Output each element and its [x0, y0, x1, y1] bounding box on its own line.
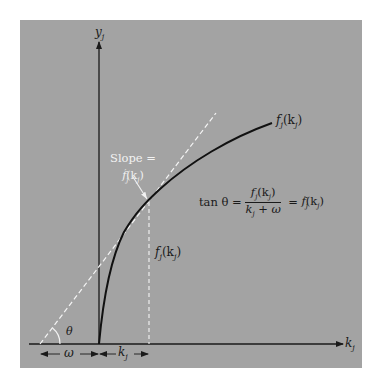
diagram-graphics: [0, 0, 383, 387]
kj-subscript: j: [125, 352, 127, 361]
height-label: fj(kj): [155, 245, 181, 261]
height-label-arg: (k: [162, 245, 174, 259]
curve-label-close: ): [297, 113, 302, 127]
den-rest: + ω: [255, 202, 281, 216]
formula-rhs: fj′(kj): [302, 194, 324, 208]
theta-label: θ: [66, 325, 73, 338]
slope-label: Slope = fj′(kj): [110, 151, 156, 187]
theta-arc: [53, 328, 61, 344]
formula-numerator: fj(kj): [245, 186, 280, 203]
slope-label-line2: fj′(kj): [110, 165, 156, 187]
formula-denominator: kj + ω: [245, 203, 280, 219]
formula-lhs: tan θ =: [199, 195, 242, 209]
slope-label-line1: Slope =: [110, 151, 156, 165]
rhs-arg: (k: [306, 194, 317, 208]
height-label-close: ): [176, 245, 181, 259]
formula-fraction: fj(kj) kj + ω: [245, 186, 280, 218]
x-axis-subscript: j: [352, 343, 354, 352]
curve-label-arg: (k: [283, 113, 295, 127]
omega-label: ω: [64, 346, 74, 360]
formula-equals: =: [285, 195, 302, 209]
curve-label: fj(kj): [276, 113, 302, 129]
y-axis-label: yj: [95, 25, 104, 41]
y-axis-subscript: j: [102, 32, 104, 41]
num-close: ): [271, 185, 276, 199]
tangent-formula: tan θ = fj(kj) kj + ω = fj′(kj): [199, 186, 324, 218]
rhs-close: ): [319, 194, 324, 208]
x-axis-label: kj: [345, 336, 355, 352]
theta-symbol: θ: [66, 325, 73, 338]
omega-symbol: ω: [64, 346, 74, 360]
num-arg: (k: [257, 185, 268, 199]
slope-close: ): [139, 169, 143, 182]
slope-arg: (k: [126, 169, 137, 182]
tangent-line: [40, 113, 216, 344]
y-axis-letter: y: [95, 25, 102, 39]
kj-dimension-label: kj: [118, 345, 128, 361]
